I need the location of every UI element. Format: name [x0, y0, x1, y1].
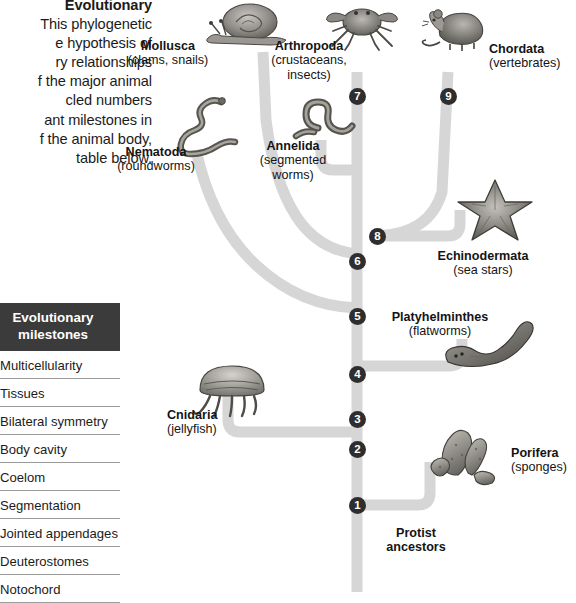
node-badge-3[interactable]: 3: [349, 411, 366, 428]
taxon-label-chordata: Chordata (vertebrates): [489, 42, 576, 71]
taxon-common-name: (flatworms): [378, 324, 502, 338]
taxon-name: Mollusca: [108, 39, 228, 53]
taxon-name: Platyhelminthes: [378, 310, 502, 324]
taxon-common-name: (jellyfish): [167, 422, 257, 436]
taxon-label-porifera: Porifera (sponges): [511, 446, 576, 475]
node-badge-8[interactable]: 8: [369, 228, 386, 245]
node-badge-2[interactable]: 2: [349, 441, 366, 458]
taxon-label-platyhelminthes: Platyhelminthes (flatworms): [378, 310, 502, 339]
taxon-common-name-line1: (segmented: [250, 153, 336, 167]
taxon-name: Nematoda: [104, 145, 208, 159]
root-label-line2: ancestors: [366, 540, 466, 554]
sea-star-illustration: [452, 176, 538, 244]
taxon-label-arthropoda: Arthropoda (crustaceans, insects): [255, 39, 363, 82]
taxon-common-name: (sea stars): [424, 263, 542, 277]
taxon-common-name: (sponges): [511, 460, 576, 474]
taxon-common-name: (vertebrates): [489, 56, 576, 70]
taxon-label-cnidaria: Cnidaria (jellyfish): [167, 408, 257, 437]
branch-chordata: [377, 72, 448, 236]
taxon-name: Echinodermata: [424, 249, 542, 263]
node-badge-4[interactable]: 4: [349, 366, 366, 383]
node-badge-6[interactable]: 6: [349, 253, 366, 270]
taxon-name: Annelida: [250, 139, 336, 153]
root-label-line1: Protist: [366, 526, 466, 540]
taxon-label-annelida: Annelida (segmented worms): [250, 139, 336, 182]
taxon-name: Arthropoda: [255, 39, 363, 53]
node-badge-5[interactable]: 5: [349, 308, 366, 325]
taxon-common-name: (clams, snails): [108, 53, 228, 67]
taxon-label-mollusca: Mollusca (clams, snails): [108, 39, 228, 68]
taxon-label-echinodermata: Echinodermata (sea stars): [424, 249, 542, 278]
node-badge-1[interactable]: 1: [349, 497, 366, 514]
sponge-illustration: [418, 425, 504, 487]
taxon-common-name-line2: worms): [250, 168, 336, 182]
taxon-label-nematoda: Nematoda (roundworms): [104, 145, 208, 174]
mouse-illustration: [420, 2, 496, 54]
taxon-name: Chordata: [489, 42, 576, 56]
root-label-protist-ancestors: Protist ancestors: [366, 526, 466, 555]
taxon-common-name-line2: insects): [255, 68, 363, 82]
taxon-common-name-line1: (crustaceans,: [255, 53, 363, 67]
taxon-name: Porifera: [511, 446, 576, 460]
taxon-common-name: (roundworms): [104, 159, 208, 173]
node-badge-9[interactable]: 9: [440, 88, 457, 105]
taxon-name: Cnidaria: [167, 408, 257, 422]
